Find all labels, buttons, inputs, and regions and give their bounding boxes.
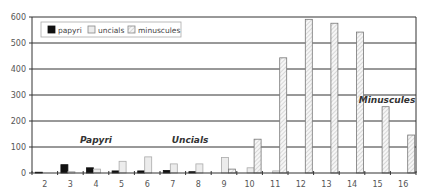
y-tick-label: 300	[11, 91, 26, 100]
bar-minuscules-11	[280, 58, 287, 173]
x-tick-label: 13	[321, 180, 331, 189]
bar-uncials-9	[222, 157, 229, 173]
y-tick-label: 0	[21, 169, 26, 178]
x-tick-label: 6	[145, 180, 150, 189]
x-tick-label: 2	[42, 180, 47, 189]
x-tick-label: 11	[270, 180, 280, 189]
annotation-minuscules: Minuscules	[359, 95, 416, 105]
bar-minuscules-16	[408, 135, 415, 173]
y-tick-label: 200	[11, 117, 26, 126]
bar-uncials-8	[196, 164, 203, 173]
bar-uncials-10	[247, 168, 254, 173]
y-tick-label: 600	[11, 13, 26, 22]
y-tick-label: 400	[11, 65, 26, 74]
bar-uncials-5	[119, 161, 126, 173]
bar-minuscules-10	[254, 139, 261, 173]
x-tick-label: 8	[196, 180, 201, 189]
bar-uncials-6	[145, 157, 152, 173]
x-axis: 2345678910111213141516	[32, 171, 416, 189]
annotation-uncials: Uncials	[172, 135, 209, 145]
x-tick-label: 12	[296, 180, 306, 189]
bar-minuscules-15	[382, 107, 389, 173]
y-tick-label: 500	[11, 39, 26, 48]
x-tick-label: 14	[347, 180, 357, 189]
legend-swatch-minuscules	[128, 26, 135, 33]
bar-minuscules-13	[331, 23, 338, 173]
x-tick-label: 10	[245, 180, 255, 189]
legend-label-minuscules: minuscules	[138, 26, 180, 35]
y-tick-label: 100	[11, 143, 26, 152]
legend: papyriuncialsminuscules	[41, 22, 181, 37]
legend-label-papyri: papyri	[58, 26, 82, 35]
bar-chart: 0100200300400500600 23456789101112131415…	[0, 0, 425, 196]
x-tick-label: 5	[119, 180, 124, 189]
x-tick-label: 3	[68, 180, 73, 189]
legend-label-uncials: uncials	[98, 26, 124, 35]
bar-papyri-4	[87, 168, 94, 173]
bar-minuscules-12	[305, 19, 312, 173]
x-tick-label: 15	[373, 180, 383, 189]
bar-uncials-7	[170, 164, 177, 173]
y-axis: 0100200300400500600	[11, 13, 32, 178]
x-tick-label: 4	[93, 180, 98, 189]
annotation-papyri: Papyri	[80, 135, 113, 145]
x-tick-label: 9	[221, 180, 226, 189]
x-tick-label: 7	[170, 180, 175, 189]
legend-swatch-papyri	[48, 26, 55, 33]
annotations: PapyriUncialsMinuscules	[80, 95, 416, 145]
legend-swatch-uncials	[88, 26, 95, 33]
x-tick-label: 16	[398, 180, 408, 189]
bar-papyri-3	[61, 165, 68, 173]
